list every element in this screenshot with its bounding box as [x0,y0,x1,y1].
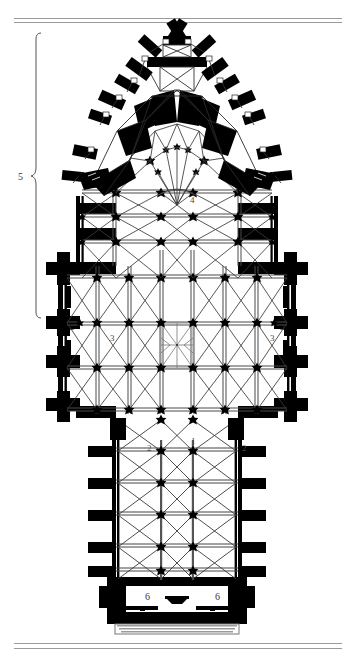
key-label-transept-left: 3 [110,334,115,343]
west-facade-block [99,577,255,634]
bracket-label-5: 5 [18,171,23,182]
key-label-choir: 4 [190,196,195,205]
key-label-nave: 1 [191,437,196,446]
bottom-rule-outer [14,643,342,644]
transept-structure [46,203,308,440]
bottom-rule-inner [14,648,342,649]
plan-linework [31,18,308,634]
nave-vault-ribs [118,420,236,579]
key-label-tower-right: 6 [215,592,220,602]
cathedral-plan-drawing [0,0,354,661]
key-label-aisle-right: 2 [242,444,247,453]
key-label-transept-right: 3 [270,334,275,343]
figure-page: 5 1 2 2 3 3 4 6 6 [0,0,354,661]
key-label-tower-left: 6 [145,592,150,602]
chevet-choir-brace [31,33,41,318]
key-label-aisle-left: 2 [147,444,152,453]
crossing-vault [161,323,193,368]
